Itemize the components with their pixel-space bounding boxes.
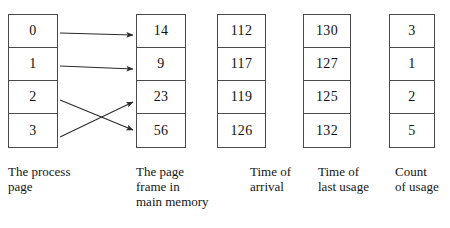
table-cell: 3 <box>390 15 434 48</box>
column-process-page: 0 1 2 3 <box>8 14 58 148</box>
table-cell: 132 <box>304 114 350 147</box>
table-cell: 1 <box>390 48 434 81</box>
mapping-arrows <box>60 33 133 137</box>
table-cell: 0 <box>9 15 57 48</box>
column-count-of-usage: 3 1 2 5 <box>389 14 435 148</box>
caption-page-frame: The page frame in main memory <box>136 164 248 209</box>
table-cell: 2 <box>390 81 434 114</box>
table-cell: 23 <box>137 81 185 114</box>
table-cell: 56 <box>137 114 185 147</box>
arrow-page-3-to-frame-23 <box>60 102 133 137</box>
caption-process-page: The process page <box>8 164 128 194</box>
table-cell: 1 <box>9 48 57 81</box>
table-cell: 117 <box>218 48 265 81</box>
caption-time-of-last-usage: Time of last usage <box>318 164 406 194</box>
table-cell: 5 <box>390 114 434 147</box>
table-cell: 127 <box>304 48 350 81</box>
page-table-diagram: 0 1 2 3 14 9 23 56 112 117 119 126 130 1… <box>0 0 450 228</box>
column-time-of-last-usage: 130 127 125 132 <box>303 14 351 148</box>
column-page-frame: 14 9 23 56 <box>136 14 186 148</box>
arrow-page-1-to-frame-9 <box>60 66 133 69</box>
table-cell: 125 <box>304 81 350 114</box>
table-cell: 119 <box>218 81 265 114</box>
arrow-page-0-to-frame-14 <box>60 33 133 35</box>
table-cell: 9 <box>137 48 185 81</box>
table-cell: 3 <box>9 114 57 147</box>
table-cell: 130 <box>304 15 350 48</box>
column-time-of-arrival: 112 117 119 126 <box>217 14 266 148</box>
table-cell: 14 <box>137 15 185 48</box>
table-cell: 112 <box>218 15 265 48</box>
arrow-page-2-to-frame-56 <box>60 100 133 130</box>
table-cell: 2 <box>9 81 57 114</box>
table-cell: 126 <box>218 114 265 147</box>
caption-count-of-usage: Count of usage <box>395 164 450 194</box>
